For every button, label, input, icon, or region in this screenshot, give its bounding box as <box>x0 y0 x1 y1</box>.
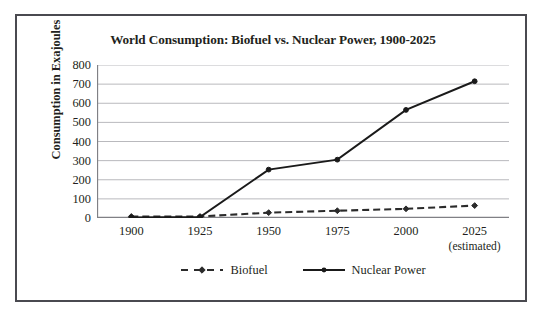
x-tick-sublabel-2025: (estimated) <box>435 240 515 254</box>
y-tick-label-700: 700 <box>41 78 91 90</box>
gridlines <box>97 65 509 218</box>
chart-legend: BiofuelNuclear Power <box>97 259 509 281</box>
chart-frame: World Consumption: Biofuel vs. Nuclear P… <box>15 14 527 302</box>
y-tick-label-600: 600 <box>41 97 91 109</box>
chart-figure: World Consumption: Biofuel vs. Nuclear P… <box>0 0 545 318</box>
y-tick-label-100: 100 <box>41 193 91 205</box>
y-tick-label-0: 0 <box>41 212 91 224</box>
y-tick-label-200: 200 <box>41 174 91 186</box>
x-tick-label-2025: 2025(estimated) <box>435 224 515 254</box>
legend-label-nuclear-power: Nuclear Power <box>352 263 426 278</box>
y-tick-label-800: 800 <box>41 59 91 71</box>
data-point-biofuel-1975 <box>334 208 340 214</box>
legend-item-nuclear-power[interactable]: Nuclear Power <box>302 263 426 278</box>
data-point-biofuel-2000 <box>403 206 409 212</box>
y-tick-label-500: 500 <box>41 116 91 128</box>
data-point-nuclear-power-1975 <box>335 157 340 162</box>
data-point-nuclear-power-2000 <box>404 108 409 113</box>
data-point-nuclear-power-1925 <box>198 215 203 218</box>
chart-title: World Consumption: Biofuel vs. Nuclear P… <box>17 32 529 48</box>
y-axis-tick-labels: 8007006005004003002001000 <box>41 65 91 218</box>
legend-label-biofuel: Biofuel <box>230 263 267 278</box>
legend-swatch-nuclear-power <box>302 264 346 276</box>
data-point-biofuel-2025 <box>472 203 478 209</box>
data-point-nuclear-power-2025 <box>472 79 477 84</box>
y-tick-label-400: 400 <box>41 135 91 147</box>
series-line-nuclear-power <box>131 81 474 217</box>
series-line-biofuel <box>131 206 474 217</box>
data-point-nuclear-power-1950 <box>266 167 271 172</box>
data-point-biofuel-1950 <box>266 210 272 216</box>
data-point-nuclear-power-1900 <box>129 215 134 218</box>
plot-svg <box>97 65 509 218</box>
data-series-layer <box>128 79 477 218</box>
y-tick-label-300: 300 <box>41 154 91 166</box>
legend-item-biofuel[interactable]: Biofuel <box>180 263 267 278</box>
x-axis-tick-labels: 190019251950197520002025(estimated) <box>97 224 509 264</box>
plot-area <box>97 65 509 218</box>
legend-swatch-biofuel <box>180 264 224 276</box>
